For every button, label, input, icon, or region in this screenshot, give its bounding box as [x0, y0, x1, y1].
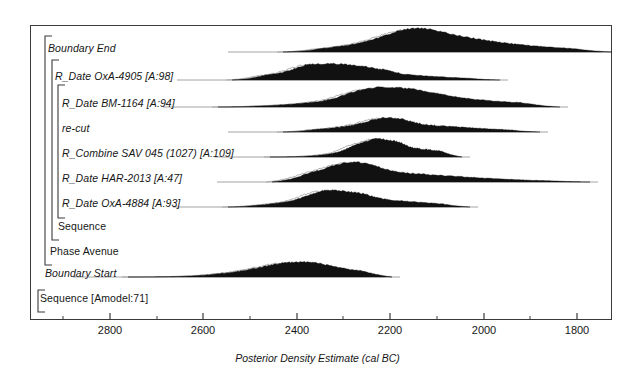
row-label-sequence-inner: Sequence [58, 220, 106, 232]
posterior-r-date-oxa-4905 [232, 63, 500, 80]
axis-tick-label-2600: 2600 [191, 324, 215, 336]
row-label-r-date-oxa-4884: R_Date OxA-4884 [A:93] [62, 197, 180, 209]
row-label-phase-avenue: Phase Avenue [50, 245, 119, 257]
row-label-r-date-har-2013: R_Date HAR-2013 [A:47] [62, 172, 182, 184]
posterior-r-date-bm-1164 [218, 87, 560, 107]
axis-tick-label-2000: 2000 [472, 324, 496, 336]
posterior-r-combine-sav-045 [270, 138, 462, 157]
row-label-sequence-amodel: Sequence [Amodel:71] [40, 292, 148, 304]
oxcal-plot-root: Boundary EndR_Date OxA-4905 [A:98]R_Date… [0, 0, 635, 377]
axis-title: Posterior Density Estimate (cal BC) [235, 352, 400, 364]
axis-tick-label-2200: 2200 [378, 324, 402, 336]
row-label-r-combine-sav-045: R_Combine SAV 045 (1027) [A:109] [62, 147, 234, 159]
axis-tick-label-2400: 2400 [285, 324, 309, 336]
row-label-boundary-end: Boundary End [48, 42, 116, 54]
plot-drawing-layer [0, 0, 635, 377]
row-label-boundary-start: Boundary Start [45, 267, 116, 279]
posterior-boundary-start [128, 261, 392, 277]
posterior-re-cut [283, 117, 540, 132]
bracket-bracket-phase-avenue [45, 36, 52, 265]
axis-tick-group [63, 313, 577, 320]
row-label-r-date-bm-1164: R_Date BM-1164 [A:94] [62, 97, 175, 109]
axis-tick-label-1800: 1800 [565, 324, 589, 336]
posterior-r-date-har-2013 [272, 162, 590, 182]
row-label-r-date-oxa-4905: R_Date OxA-4905 [A:98] [55, 70, 173, 82]
posterior-boundary-end [283, 28, 612, 52]
axis-tick-label-2800: 2800 [98, 324, 122, 336]
row-label-re-cut: re-cut [62, 122, 89, 134]
